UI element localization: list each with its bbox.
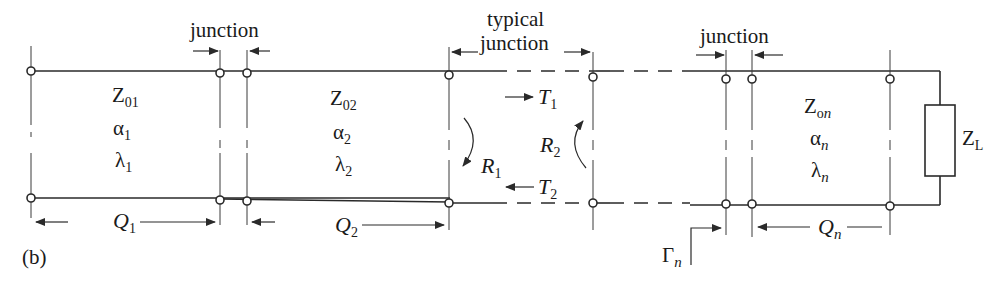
reflection-R2: R2 — [540, 134, 560, 156]
transmission-line-diagram: junction typical junction junction Z01 α… — [0, 0, 1003, 287]
sectionn-attenuation: αn — [810, 128, 829, 149]
section2-attenuation: α2 — [333, 122, 351, 143]
section1-impedance: Z01 — [112, 85, 139, 106]
sectionn-length: Qn — [815, 216, 844, 238]
load-impedance-label: ZL — [962, 128, 983, 149]
load-impedance-box — [925, 105, 955, 176]
typical-junction-label-line2: junction — [480, 33, 549, 54]
transmission-T1: T1 — [538, 86, 557, 108]
panel-label: (b) — [22, 247, 47, 268]
reflection-R1: R1 — [481, 155, 501, 177]
junction-label-right: junction — [700, 26, 769, 47]
typical-junction-label-line1: typical — [487, 9, 544, 30]
section2-wavelength: λ2 — [335, 154, 352, 175]
section2-impedance: Z02 — [330, 88, 357, 109]
node-circles — [27, 67, 894, 210]
section1-wavelength: λ1 — [115, 150, 132, 171]
junction-label-left: junction — [190, 20, 259, 41]
transmission-T2: T2 — [538, 176, 557, 198]
sectionn-impedance: Zon — [804, 96, 831, 117]
sectionn-wavelength: λn — [811, 160, 829, 181]
reflection-coefficient-gamma-n: Γn — [662, 245, 682, 266]
section1-length: Q1 — [110, 210, 139, 232]
section2-length: Q2 — [332, 214, 361, 236]
section1-attenuation: α1 — [113, 118, 131, 139]
